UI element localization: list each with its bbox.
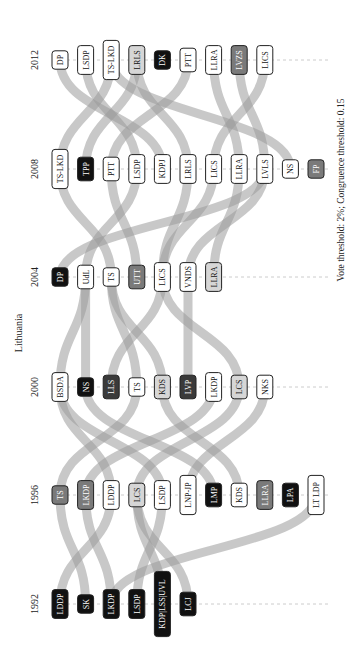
alluvial-diagram: 201220082004200019961992 DPLSDPTS-LKDLRL… [0, 0, 355, 667]
party-node: LCS [129, 483, 145, 507]
party-node: TS [129, 378, 145, 396]
party-label: PTT [107, 162, 116, 176]
party-label: LVP [184, 379, 193, 394]
party-node: TPP [78, 157, 94, 181]
party-node: KDS [154, 375, 170, 399]
party-node: TS [103, 268, 119, 286]
party-label: NKS [261, 379, 270, 395]
party-node: PTT [103, 157, 119, 181]
party-node: LICS [257, 46, 273, 75]
year-label: 2008 [29, 159, 40, 179]
party-node: LICS [206, 155, 222, 184]
party-node: UdL [78, 265, 94, 289]
party-node: LKDP [78, 481, 94, 510]
party-label: LRLS [133, 50, 142, 70]
party-node: VNDS [180, 263, 196, 292]
year-label: 2000 [29, 377, 40, 397]
party-label: LSDP [133, 159, 142, 179]
party-node: TS-LKD [52, 149, 68, 188]
party-label: LCS [133, 488, 142, 503]
party-label: DK [158, 54, 167, 66]
party-node: NS [282, 160, 298, 178]
flow-band [60, 387, 137, 495]
party-node: LNP-JP [180, 475, 196, 514]
party-label: LSDP [133, 594, 142, 614]
year-label: 2004 [29, 267, 40, 287]
party-node: LVZS [231, 46, 247, 75]
flow-band [162, 277, 239, 387]
party-node: PTT [180, 48, 196, 72]
party-node: TS [52, 486, 68, 504]
party-node: NKS [257, 375, 273, 399]
party-label: LSDP [158, 485, 167, 505]
party-node: KDS [231, 483, 247, 507]
party-node: LPA [282, 483, 298, 507]
party-node: LSDP [154, 481, 170, 510]
year-label: 1992 [29, 594, 40, 614]
party-node: LRLS [180, 155, 196, 184]
party-label: DP [56, 271, 65, 282]
party-label: TS [133, 382, 142, 391]
party-node: SK [78, 595, 94, 613]
party-label: TS [56, 490, 65, 499]
party-label: LPA [286, 488, 295, 503]
party-node: LSDP [78, 46, 94, 75]
party-label: DP [56, 54, 65, 65]
party-node: LVLS [257, 155, 273, 184]
party-node: LICS [154, 263, 170, 292]
party-label: LNP-JP [184, 482, 193, 508]
year-label: 1996 [29, 485, 40, 505]
party-label: LRLS [184, 159, 193, 179]
party-label: LICS [261, 51, 270, 68]
party-label: LSDP [82, 50, 91, 70]
party-node: LDDP [103, 481, 119, 510]
party-node: TS-LKD [103, 40, 119, 79]
party-label: LDDP [56, 593, 65, 614]
party-node: BSDA [52, 373, 68, 402]
party-label: KDP|LSS|UVL [158, 579, 167, 629]
chart-canvas: 201220082004200019961992 DPLSDPTS-LKDLRL… [0, 0, 355, 667]
party-node: DP [52, 268, 68, 286]
party-node: LVP [180, 375, 196, 399]
party-label: FP [312, 164, 321, 173]
party-label: UTT [133, 269, 142, 285]
chart-title: Lithuania [13, 313, 24, 352]
party-label: LKDP [82, 484, 91, 505]
party-label: PTT [184, 53, 193, 67]
party-node: FP [308, 160, 324, 178]
party-label: LKDP [210, 376, 219, 397]
party-label: TS-LKD [56, 155, 65, 184]
party-label: LICS [210, 160, 219, 177]
party-label: LVZS [235, 50, 244, 69]
party-label: KDS [158, 379, 167, 395]
party-node: LCJ [180, 592, 196, 616]
party-node: LKDP [206, 373, 222, 402]
party-label: KDS [235, 487, 244, 503]
party-label: LCJ [184, 597, 193, 610]
party-node: KDP|LSS|UVL [154, 571, 170, 636]
party-label: TS-LKD [107, 46, 116, 75]
party-label: LCS [235, 380, 244, 395]
party-label: LLS [107, 380, 116, 394]
party-node: DP [52, 51, 68, 69]
party-node: LCS [231, 375, 247, 399]
party-node: LLRA [206, 46, 222, 75]
party-label: LKDP [107, 593, 116, 614]
party-node: KDPJ [154, 155, 170, 184]
party-label: BSDA [56, 376, 65, 398]
party-label: LVLS [261, 159, 270, 178]
party-label: UdL [82, 270, 91, 285]
party-label: LMP [210, 486, 219, 503]
party-label: NS [286, 164, 295, 174]
party-node: LMP [206, 483, 222, 507]
party-label: KDPJ [158, 159, 167, 178]
party-node: LKDP [103, 590, 119, 619]
party-node: LT LDP [308, 475, 324, 514]
party-node: LRLS [129, 46, 145, 75]
party-label: VNDS [184, 266, 193, 288]
party-label: LLRA [210, 266, 219, 287]
party-label: LT LDP [312, 481, 321, 508]
threshold-footnote: Vote threshold: 2%; Congruence threshold… [336, 98, 346, 281]
party-node: LLRA [231, 155, 247, 184]
party-node: LSDP [129, 155, 145, 184]
